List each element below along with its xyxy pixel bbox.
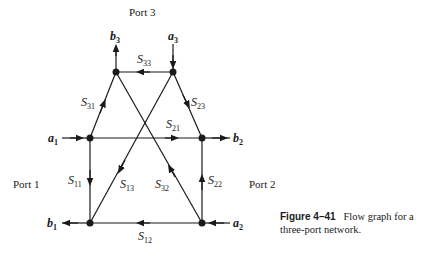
label-s13: S13 bbox=[120, 178, 134, 190]
branch-s13 bbox=[90, 72, 173, 223]
label-s11: S11 bbox=[68, 174, 82, 186]
label-a2: a2 bbox=[233, 217, 243, 229]
label-s33: S33 bbox=[137, 53, 151, 65]
label-b2: b2 bbox=[233, 132, 243, 144]
node-b2 bbox=[199, 135, 206, 142]
label-s31: S31 bbox=[81, 96, 95, 108]
label-s32: S32 bbox=[155, 178, 169, 190]
label-s21: S21 bbox=[166, 118, 180, 130]
label-b3: b3 bbox=[110, 30, 120, 42]
node-a2 bbox=[199, 220, 206, 227]
label-a3: a3 bbox=[168, 30, 178, 42]
label-s23: S23 bbox=[191, 96, 205, 108]
port-2-label: Port 2 bbox=[249, 179, 276, 190]
caption-label: Figure 4–41 bbox=[280, 211, 336, 222]
label-s12: S12 bbox=[138, 230, 152, 242]
node-b3 bbox=[113, 69, 120, 76]
branch-s32 bbox=[116, 72, 202, 223]
node-a1 bbox=[87, 135, 94, 142]
figure-caption: Figure 4–41 Flow graph for a three-port … bbox=[280, 210, 425, 236]
label-a1: a1 bbox=[48, 132, 58, 144]
node-a3 bbox=[170, 69, 177, 76]
label-s22: S22 bbox=[208, 174, 222, 186]
port-1-label: Port 1 bbox=[13, 179, 40, 190]
port-3-label: Port 3 bbox=[129, 7, 156, 18]
label-b1: b1 bbox=[47, 217, 57, 229]
node-b1 bbox=[87, 220, 94, 227]
